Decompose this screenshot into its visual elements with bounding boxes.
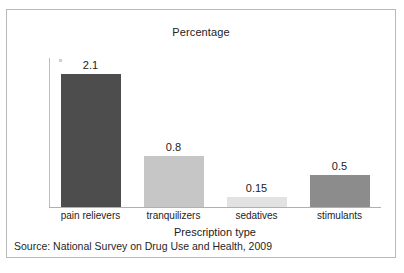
bar-slot: 2.1 — [49, 58, 132, 207]
chart-title: Percentage — [7, 26, 395, 38]
bar-value-label: 0.15 — [246, 182, 267, 195]
x-axis-label: Prescription type — [49, 226, 381, 238]
bar-rect — [144, 156, 204, 207]
bar-slot: 0.8 — [132, 58, 215, 207]
bar-value-label: 0.8 — [166, 141, 181, 154]
x-tick-labels: pain relieverstranquilizerssedativesstim… — [49, 210, 381, 221]
bar-series: 2.10.80.150.5 — [49, 58, 381, 207]
bar-rect — [310, 175, 370, 207]
bar-value-label: 0.5 — [332, 160, 347, 173]
source-note: Source: National Survey on Drug Use and … — [14, 240, 272, 252]
plot-area: 2.10.80.150.5 — [49, 58, 381, 208]
bar-value-label: 2.1 — [83, 59, 98, 72]
chart-figure: Percentage 2.10.80.150.5 pain relieverst… — [0, 0, 404, 273]
x-tick-label: stimulants — [298, 210, 381, 221]
bar-slot: 0.15 — [215, 58, 298, 207]
x-axis-line — [49, 207, 381, 208]
chart-frame: Percentage 2.10.80.150.5 pain relieverst… — [6, 9, 396, 258]
bar-rect — [61, 74, 121, 207]
x-tick-label: tranquilizers — [132, 210, 215, 221]
bar-slot: 0.5 — [298, 58, 381, 207]
x-tick-label: pain relievers — [49, 210, 132, 221]
bar-rect — [227, 197, 287, 207]
x-tick-label: sedatives — [215, 210, 298, 221]
